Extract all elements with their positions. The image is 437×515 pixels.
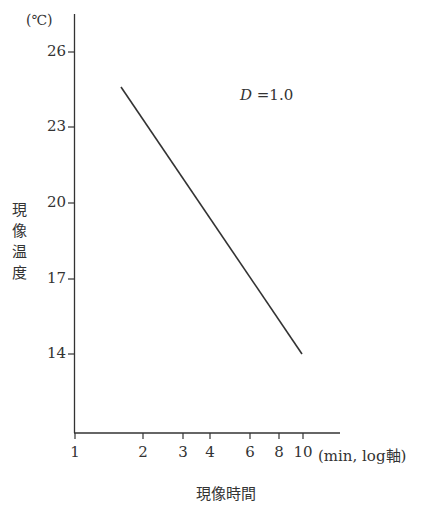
x-ticks (75, 433, 303, 439)
y-title-char: 像 (10, 221, 28, 242)
y-axis-title: 現 像 温 度 (10, 200, 28, 284)
x-tick-label: 4 (195, 443, 225, 461)
y-ticks (68, 52, 74, 354)
x-tick-label: 2 (128, 443, 158, 461)
x-tick-label: 3 (168, 443, 198, 461)
series-line-d1 (121, 87, 302, 354)
y-tick-label: 14 (26, 344, 66, 362)
y-tick-label: 20 (26, 193, 66, 211)
x-tick-label: 6 (235, 443, 265, 461)
y-title-char: 温 (10, 242, 28, 263)
series-annotation: D =1.0 (240, 86, 293, 104)
annotation-value: =1.0 (252, 86, 293, 104)
annotation-variable: D (240, 86, 252, 104)
x-tick-label: 10 (288, 443, 318, 461)
y-tick-label: 23 (26, 117, 66, 135)
x-axis-title: 現像時間 (196, 482, 256, 503)
y-title-char: 現 (10, 200, 28, 221)
x-unit-label: (min, log軸) (318, 444, 406, 465)
y-title-char: 度 (10, 263, 28, 284)
y-unit-label: (℃) (26, 12, 53, 28)
x-tick-label: 1 (60, 443, 90, 461)
y-tick-label: 17 (26, 269, 66, 287)
y-tick-label: 26 (26, 42, 66, 60)
chart-canvas (0, 0, 437, 515)
